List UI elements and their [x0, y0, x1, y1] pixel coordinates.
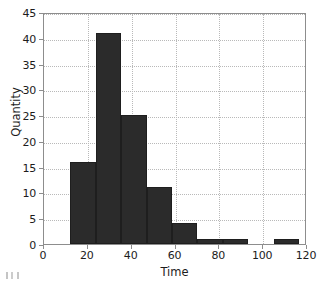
y-tick-mark [39, 142, 43, 143]
x-tick-label: 60 [155, 250, 195, 261]
gridline-vertical [219, 14, 220, 244]
x-tick-label: 20 [67, 250, 107, 261]
y-tick-label: 15 [0, 163, 36, 174]
y-tick-label: 45 [0, 8, 36, 19]
y-tick-mark [39, 193, 43, 194]
gridline-horizontal [44, 66, 305, 67]
plot-area [43, 13, 306, 245]
y-tick-mark [39, 116, 43, 117]
y-tick-label: 40 [0, 34, 36, 45]
y-tick-mark [39, 168, 43, 169]
x-tick-label: 40 [111, 250, 151, 261]
x-tick-label: 0 [23, 250, 63, 261]
x-axis-title: Time [43, 266, 306, 278]
histogram-bar [147, 187, 172, 244]
y-axis-title: Quantity [10, 72, 22, 152]
gridline-vertical [176, 14, 177, 244]
histogram-bar [121, 115, 146, 244]
histogram-bar [197, 239, 222, 244]
histogram-bar [172, 223, 197, 244]
scan-artifact [6, 272, 22, 279]
gridline-horizontal [44, 14, 305, 15]
y-tick-label: 5 [0, 214, 36, 225]
y-tick-mark [39, 90, 43, 91]
gridline-horizontal [44, 91, 305, 92]
histogram-bar [70, 162, 95, 244]
y-tick-mark [39, 13, 43, 14]
y-tick-mark [39, 39, 43, 40]
x-tick-label: 100 [242, 250, 282, 261]
histogram-figure: 051015202530354045 020406080100120 Time … [0, 0, 325, 286]
gridline-vertical [263, 14, 264, 244]
x-tick-label: 80 [198, 250, 238, 261]
gridline-horizontal [44, 143, 305, 144]
histogram-bar [223, 239, 248, 244]
gridline-horizontal [44, 117, 305, 118]
histogram-bar [274, 239, 299, 244]
y-tick-label: 35 [0, 60, 36, 71]
histogram-bar [96, 33, 121, 244]
x-tick-label: 120 [286, 250, 325, 261]
y-tick-mark [39, 65, 43, 66]
y-tick-mark [39, 219, 43, 220]
gridline-horizontal [44, 40, 305, 41]
y-tick-label: 10 [0, 188, 36, 199]
